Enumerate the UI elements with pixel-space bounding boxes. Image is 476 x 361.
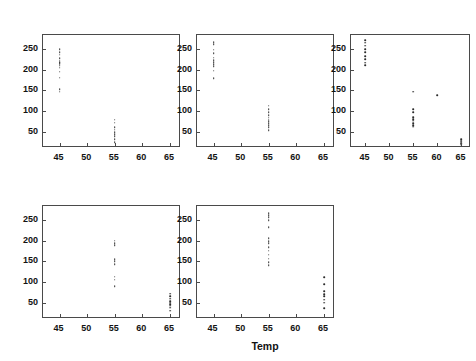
data-point	[114, 244, 116, 246]
y-tick	[43, 49, 46, 50]
x-tick	[461, 143, 462, 146]
y-tick	[197, 282, 200, 283]
y-tick	[351, 111, 354, 112]
data-point	[323, 276, 325, 278]
data-point	[59, 77, 61, 79]
data-point	[413, 111, 415, 113]
x-tick	[437, 143, 438, 146]
x-tick-label: 65	[455, 152, 465, 162]
data-point	[268, 114, 270, 116]
data-point	[59, 91, 61, 93]
data-point	[213, 65, 215, 67]
x-tick	[214, 314, 215, 317]
data-point	[413, 109, 415, 111]
data-point	[268, 126, 270, 128]
y-tick-label: 200	[2, 235, 38, 245]
y-tick-label: 100	[2, 105, 38, 115]
data-point	[268, 216, 270, 218]
x-tick-label: 60	[290, 152, 300, 162]
data-point	[268, 246, 270, 248]
x-tick	[413, 143, 414, 146]
y-tick	[197, 220, 200, 221]
data-point	[213, 77, 215, 79]
x-tick	[87, 143, 88, 146]
y-tick-label: 250	[2, 214, 38, 224]
x-tick-label: 55	[263, 323, 273, 333]
data-point	[114, 285, 116, 287]
x-tick	[324, 314, 325, 317]
y-tick	[197, 111, 200, 112]
x-tick	[269, 314, 270, 317]
data-point	[114, 139, 116, 141]
y-tick-label: 150	[2, 84, 38, 94]
x-tick	[241, 314, 242, 317]
y-tick	[351, 132, 354, 133]
data-point	[365, 48, 367, 50]
data-point	[213, 49, 215, 51]
data-point	[365, 55, 367, 57]
x-tick-label: 60	[431, 152, 441, 162]
x-tick	[296, 314, 297, 317]
data-point	[268, 238, 270, 240]
x-tick	[60, 143, 61, 146]
data-point	[268, 258, 270, 260]
y-tick	[351, 49, 354, 50]
y-tick-label: 50	[2, 126, 38, 136]
x-tick-label: 55	[109, 323, 119, 333]
x-tick-label: 50	[81, 152, 91, 162]
data-point	[323, 291, 325, 293]
y-tick-label: 200	[2, 64, 38, 74]
y-tick-label: 250	[156, 43, 192, 53]
x-tick	[142, 314, 143, 317]
data-point	[268, 264, 270, 266]
facet-panel-25: 501001502002504550556065	[310, 16, 476, 169]
data-point	[59, 51, 61, 53]
y-tick	[43, 282, 46, 283]
y-tick	[197, 261, 200, 262]
data-point	[323, 308, 325, 310]
y-tick	[43, 132, 46, 133]
data-point	[114, 276, 116, 278]
y-tick	[43, 90, 46, 91]
y-tick-label: 100	[2, 276, 38, 286]
facet-panel-75: 501001502002504550556065	[156, 187, 340, 340]
y-tick-label: 100	[156, 276, 192, 286]
data-point	[114, 133, 116, 135]
data-point	[114, 258, 116, 260]
y-tick	[43, 70, 46, 71]
y-tick-label: 250	[310, 43, 346, 53]
y-tick	[197, 90, 200, 91]
data-point	[114, 261, 116, 263]
data-point	[213, 43, 215, 45]
y-tick	[197, 70, 200, 71]
data-point	[268, 250, 270, 252]
x-tick	[269, 143, 270, 146]
data-point	[437, 94, 439, 96]
data-point	[365, 51, 367, 53]
y-tick-label: 50	[156, 297, 192, 307]
y-tick-label: 150	[156, 255, 192, 265]
x-tick	[389, 143, 390, 146]
facet-scatter-figure: 5010015020025045505560655010015020025045…	[0, 0, 476, 361]
data-point	[213, 52, 215, 54]
data-point	[59, 67, 61, 69]
data-layer-75	[197, 206, 333, 317]
x-tick	[60, 314, 61, 317]
x-tick	[214, 143, 215, 146]
y-tick-label: 250	[2, 43, 38, 53]
data-point	[268, 261, 270, 263]
data-point	[114, 136, 116, 138]
x-tick-label: 50	[235, 323, 245, 333]
data-point	[114, 129, 116, 131]
data-point	[268, 130, 270, 132]
y-tick-label: 50	[310, 126, 346, 136]
data-point	[268, 108, 270, 110]
y-tick-label: 200	[310, 64, 346, 74]
y-tick	[43, 261, 46, 262]
data-point	[59, 58, 61, 60]
y-tick	[43, 241, 46, 242]
plot-frame-25	[350, 34, 470, 147]
x-tick-label: 45	[54, 152, 64, 162]
data-point	[59, 54, 61, 56]
data-point	[59, 49, 61, 51]
